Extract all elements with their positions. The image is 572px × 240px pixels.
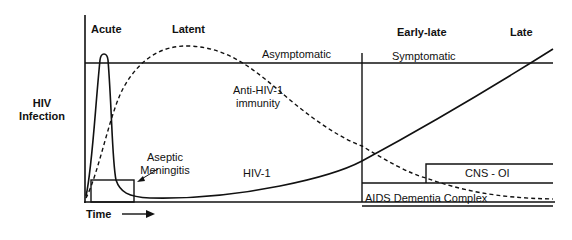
- stage-label-early-late: Early-late: [397, 27, 447, 38]
- time-arrow-icon: [146, 210, 155, 218]
- aseptic-meningitis-label-line2: Meningitis: [135, 165, 195, 176]
- y-axis-label-line2: Infection: [12, 111, 72, 122]
- y-axis-label-line1: HIV: [12, 98, 72, 109]
- asymptomatic-label: Asymptomatic: [262, 49, 331, 60]
- cns-oi-label: CNS - OI: [465, 168, 510, 179]
- symptomatic-label: Symptomatic: [392, 51, 456, 62]
- aseptic-meningitis-box: [91, 180, 134, 202]
- aseptic-meningitis-label-line1: Aseptic: [135, 152, 195, 163]
- stage-label-latent: Latent: [172, 24, 205, 35]
- anti-hiv-immunity-label-line1: Anti-HIV-1: [225, 85, 291, 96]
- anti-hiv-immunity-label-line2: immunity: [225, 98, 291, 109]
- stage-label-late: Late: [510, 27, 533, 38]
- aseptic-pointer-arrowhead: [137, 176, 145, 182]
- hiv1-curve-label: HIV-1: [243, 168, 271, 179]
- stage-label-acute: Acute: [91, 24, 122, 35]
- aids-dementia-label: AIDS Dementia Complex: [365, 193, 487, 204]
- x-axis-label: Time: [86, 209, 111, 220]
